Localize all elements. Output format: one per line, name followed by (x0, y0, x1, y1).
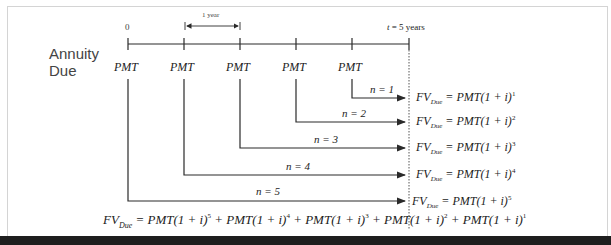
start-label: 0 (125, 22, 130, 32)
bottom-bar (0, 236, 611, 245)
n-label-1: n = 1 (370, 83, 394, 95)
fv-formula-3: FVDue = PMT(1 + i)3 (416, 140, 515, 156)
n-label-5: n = 5 (256, 185, 280, 197)
n-label-4: n = 4 (286, 160, 310, 172)
title-line-2: Due (49, 62, 99, 79)
fv-formula-4: FVDue = PMT(1 + i)4 (416, 167, 515, 183)
annuity-title: Annuity Due (49, 45, 99, 79)
interval-bracket (185, 22, 240, 30)
payment-label-3: PMT (282, 60, 306, 75)
fv-formula-1: FVDue = PMT(1 + i)1 (416, 90, 515, 106)
timeline-axis (128, 38, 409, 50)
payment-label-2: PMT (226, 60, 250, 75)
payment-label-1: PMT (170, 60, 194, 75)
fv-formula-5: FVDue = PMT(1 + i)5 (412, 194, 511, 210)
n-label-2: n = 2 (342, 107, 366, 119)
fv-formula-2: FVDue = PMT(1 + i)2 (416, 114, 515, 130)
end-label: t = 5 years (387, 22, 425, 32)
timeline-graphic (0, 0, 611, 245)
interval-label: 1 year (202, 11, 219, 19)
payment-label-4: PMT (338, 60, 362, 75)
fv-sum-formula: FVDue = PMT(1 + i)5 + PMT(1 + i)4 + PMT(… (103, 212, 526, 230)
flow-arrows (128, 79, 405, 201)
title-line-1: Annuity (49, 45, 99, 62)
end-label-rest: = 5 years (390, 22, 425, 32)
payment-label-0: PMT (114, 60, 138, 75)
n-label-3: n = 3 (314, 133, 338, 145)
